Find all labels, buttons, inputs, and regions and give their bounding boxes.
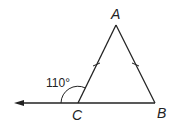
label-c: C — [72, 107, 83, 123]
label-b: B — [157, 105, 166, 121]
label-a: A — [110, 6, 120, 22]
angle-label: 110° — [46, 76, 70, 90]
triangle-diagram: A B C 110° — [0, 0, 170, 125]
arrowhead-icon — [14, 100, 24, 106]
